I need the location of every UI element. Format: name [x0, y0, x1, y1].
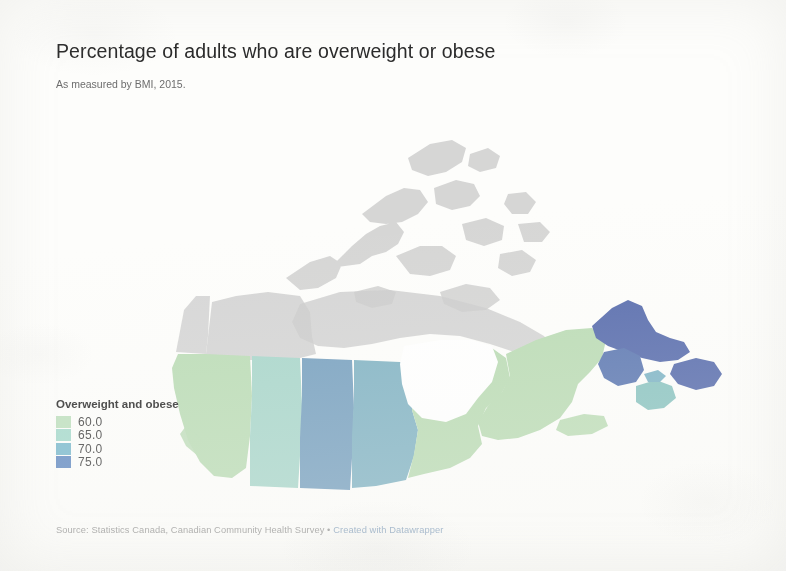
quebec-gaspe-shape [556, 414, 608, 436]
alberta-shape [250, 356, 302, 488]
map-legend: Overweight and obese 60.0 65.0 70.0 75.0 [56, 398, 179, 469]
legend-label: 75.0 [78, 455, 103, 469]
map-region-prince-edward-island[interactable] [644, 370, 666, 382]
legend-label: 65.0 [78, 428, 103, 442]
british-columbia-shape [172, 354, 252, 478]
legend-swatch [56, 429, 71, 441]
footer-credit-link[interactable]: Created with Datawrapper [333, 525, 443, 535]
choropleth-map-chart: Percentage of adults who are overweight … [0, 0, 786, 571]
legend-item[interactable]: 70.0 [56, 442, 179, 456]
yukon-shape [176, 296, 210, 354]
newfoundland-island-shape [670, 358, 722, 390]
legend-label: 60.0 [78, 415, 103, 429]
prince-edward-island-shape [644, 370, 666, 382]
map-region-nova-scotia[interactable] [636, 380, 676, 410]
map-region-yukon[interactable] [176, 296, 210, 354]
legend-swatch [56, 416, 71, 428]
legend-swatch [56, 456, 71, 468]
map-region-alberta[interactable] [250, 356, 302, 488]
legend-item[interactable]: 60.0 [56, 415, 179, 429]
legend-item[interactable]: 75.0 [56, 456, 179, 470]
nunavut-shape [286, 140, 550, 312]
chart-footer: Source: Statistics Canada, Canadian Comm… [56, 525, 444, 535]
map-region-british-columbia[interactable] [172, 354, 252, 478]
map-region-northwest-territories[interactable] [206, 292, 316, 360]
map-region-nunavut[interactable] [286, 140, 556, 358]
legend-label: 70.0 [78, 442, 103, 456]
legend-item[interactable]: 65.0 [56, 429, 179, 443]
saskatchewan-shape [300, 358, 354, 490]
chart-subtitle: As measured by BMI, 2015. [56, 78, 186, 90]
footer-source: Source: Statistics Canada, Canadian Comm… [56, 525, 324, 535]
page-title: Percentage of adults who are overweight … [56, 40, 495, 63]
legend-title: Overweight and obese [56, 398, 179, 410]
legend-swatch [56, 443, 71, 455]
footer-separator: • [327, 525, 330, 535]
northwest-territories-shape [206, 292, 316, 360]
nova-scotia-shape [636, 380, 676, 410]
map-region-saskatchewan[interactable] [300, 358, 354, 490]
